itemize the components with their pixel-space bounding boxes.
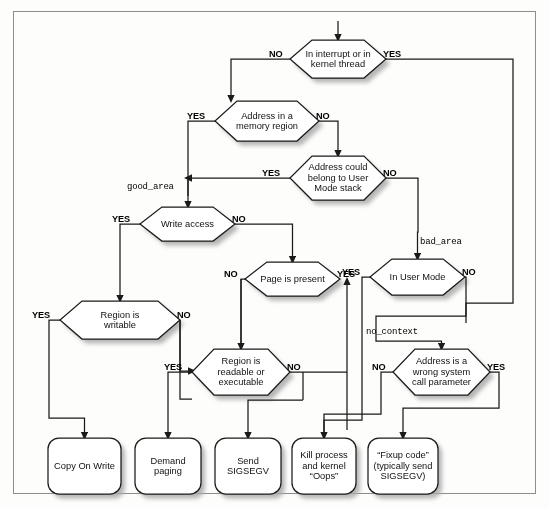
branch-label-wrong-syscall-parameter-right: YES	[487, 362, 505, 372]
branch-label-address-in-memory-region-right: NO	[316, 111, 330, 121]
flowchart-page: In interrupt or inkernel threadNOYESAddr…	[0, 0, 549, 508]
branch-label-address-user-mode-stack-left: YES	[262, 168, 280, 178]
terminal-copy-on-write	[48, 438, 121, 494]
terminal-send-sigsegv	[215, 438, 281, 494]
terminal-kill-process-oops	[292, 438, 356, 494]
decision-region-readable-executable	[192, 349, 290, 395]
branch-label-in-interrupt-right: YES	[383, 49, 401, 59]
code-label-good-area: good_area	[127, 182, 174, 192]
branch-label-address-user-mode-stack-right: NO	[383, 168, 397, 178]
branch-label-page-is-present-left: NO	[224, 269, 238, 279]
branch-label-in-user-mode-right: NO	[462, 267, 476, 277]
decision-region-is-writable	[60, 301, 180, 339]
branch-label-wrong-syscall-parameter-left: NO	[372, 362, 386, 372]
branch-label-region-is-writable-left: YES	[32, 310, 50, 320]
decision-wrong-syscall-parameter	[393, 349, 490, 395]
terminal-fixup-code	[368, 438, 438, 494]
branch-label-in-user-mode-left: YES	[342, 267, 360, 277]
branch-label-write-access-left: YES	[112, 214, 130, 224]
terminal-demand-paging	[135, 438, 201, 494]
branch-label-in-interrupt-left: NO	[269, 49, 283, 59]
node-shapes	[48, 40, 490, 494]
branch-label-write-access-right: NO	[232, 214, 246, 224]
branch-label-address-in-memory-region-left: YES	[187, 111, 205, 121]
decision-address-in-memory-region	[215, 101, 319, 141]
branch-label-region-readable-executable-right: NO	[287, 362, 301, 372]
code-label-no_context: no_context	[366, 327, 418, 337]
flowchart-connectors	[0, 0, 549, 508]
branch-label-region-is-writable-right: NO	[177, 310, 191, 320]
branch-label-region-readable-executable-left: YES	[164, 362, 182, 372]
code-label-bad-area: bad_area	[420, 237, 462, 247]
